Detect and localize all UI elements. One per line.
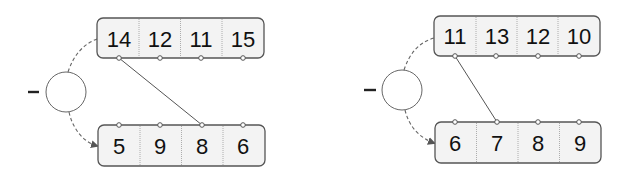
bottom-cell: 8 <box>196 134 208 159</box>
top-cell: 14 <box>107 27 131 52</box>
bottom-cell: 8 <box>532 131 544 156</box>
bottom-cell: 7 <box>491 131 503 156</box>
top-number-row: 14 12 11 15 <box>97 18 264 58</box>
top-cell: 12 <box>526 24 550 49</box>
bottom-cell: 9 <box>574 131 586 156</box>
top-cell: 13 <box>485 24 509 49</box>
dashed-arc-top <box>68 39 97 72</box>
panel-right: 11 13 12 10 6 7 8 9 <box>364 16 601 163</box>
top-cell: 12 <box>148 27 172 52</box>
dashed-arrow-bottom <box>69 112 97 146</box>
connection-dots <box>453 54 582 125</box>
connector-line <box>455 56 497 122</box>
connector-line <box>119 58 202 125</box>
answer-circle[interactable] <box>382 70 422 110</box>
top-cell: 15 <box>231 27 255 52</box>
top-cell: 10 <box>567 24 591 49</box>
answer-circle[interactable] <box>46 72 86 112</box>
dashed-arc-top <box>404 38 434 70</box>
top-number-row: 11 13 12 10 <box>434 16 600 56</box>
connection-dots <box>117 56 246 128</box>
top-cell: 11 <box>190 27 213 52</box>
bottom-cell: 5 <box>113 134 125 159</box>
bottom-number-row: 5 9 8 6 <box>98 125 265 166</box>
bottom-cell: 9 <box>154 134 166 159</box>
dashed-arrow-bottom <box>405 110 434 143</box>
subtraction-diagram: 14 12 11 15 5 9 8 6 <box>0 0 630 181</box>
panel-left: 14 12 11 15 5 9 8 6 <box>28 18 265 166</box>
bottom-cell: 6 <box>449 131 461 156</box>
bottom-number-row: 6 7 8 9 <box>435 122 601 163</box>
bottom-cell: 6 <box>237 134 249 159</box>
top-cell: 11 <box>444 24 467 49</box>
